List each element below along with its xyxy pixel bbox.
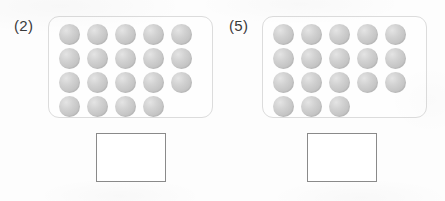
counter-row — [273, 48, 416, 70]
counter-dot — [59, 48, 80, 69]
counter-dot — [87, 24, 108, 45]
counter-dot — [143, 96, 164, 117]
counter-row — [273, 72, 416, 94]
counter-dot — [301, 48, 322, 69]
counter-dot — [329, 24, 350, 45]
counter-dot — [301, 72, 322, 93]
problem-item: (5) — [214, 0, 445, 201]
problem-item: (2) — [0, 0, 222, 201]
counter-dot — [171, 48, 192, 69]
counter-dot — [329, 72, 350, 93]
counter-dot — [385, 72, 406, 93]
counter-tray — [262, 16, 427, 118]
counter-dot — [273, 72, 294, 93]
counter-row — [59, 96, 202, 118]
counter-row — [59, 24, 202, 46]
counter-dot — [87, 96, 108, 117]
counter-dot — [329, 96, 350, 117]
counter-dot — [87, 72, 108, 93]
counter-dot — [357, 24, 378, 45]
counter-grid — [59, 24, 202, 118]
counter-dot — [143, 48, 164, 69]
counter-dot — [115, 48, 136, 69]
counter-row — [273, 96, 416, 118]
counter-row — [59, 48, 202, 70]
counter-dot — [385, 48, 406, 69]
counter-dot — [301, 24, 322, 45]
counter-dot — [59, 24, 80, 45]
problem-number-label: (5) — [229, 18, 248, 33]
counter-dot — [87, 48, 108, 69]
answer-box[interactable] — [307, 133, 377, 182]
counter-dot — [115, 96, 136, 117]
counter-dot — [115, 72, 136, 93]
counter-dot — [357, 72, 378, 93]
counter-dot — [59, 96, 80, 117]
counter-dot — [115, 24, 136, 45]
counter-dot — [357, 48, 378, 69]
counter-row — [59, 72, 202, 94]
counter-tray — [48, 16, 213, 118]
counter-row — [273, 24, 416, 46]
counter-dot — [143, 72, 164, 93]
counter-dot — [273, 96, 294, 117]
counter-dot — [329, 48, 350, 69]
counter-dot — [273, 24, 294, 45]
counter-grid — [273, 24, 416, 118]
counter-dot — [59, 72, 80, 93]
answer-box[interactable] — [96, 133, 166, 182]
counter-dot — [171, 72, 192, 93]
counter-dot — [143, 24, 164, 45]
problem-number-label: (2) — [14, 18, 33, 33]
counter-dot — [171, 24, 192, 45]
counter-dot — [385, 24, 406, 45]
counter-dot — [301, 96, 322, 117]
counter-dot — [273, 48, 294, 69]
